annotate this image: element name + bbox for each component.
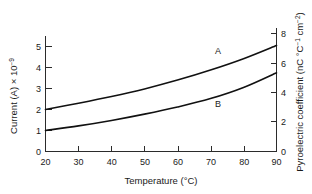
right-tick-label-8: 8: [281, 29, 286, 39]
x-tick-label-60: 60: [173, 157, 183, 167]
pyroelectric-current-chart: 5 4 3 2 1 0 8 6 4 2 0 20 30 40 50 60 70: [0, 0, 312, 194]
right-tick-label-0: 0: [281, 147, 286, 157]
right-tick-label-6: 6: [281, 59, 286, 69]
x-tick-label-30: 30: [74, 157, 84, 167]
y-axis-title-right-end: ): [294, 12, 305, 15]
left-tick-label-3: 3: [36, 84, 41, 94]
y-axis-title-left-exponent: −9: [8, 58, 15, 66]
right-tick-label-2: 2: [281, 117, 286, 127]
x-tick-label-90: 90: [271, 157, 281, 167]
y-axis-title-right: Pyroelectric coefficient (nC °C−1 cm−2): [294, 12, 306, 171]
right-tick-label-4: 4: [281, 88, 286, 98]
x-axis-title: Temperature (°C): [125, 175, 198, 186]
curve-label-B: B: [215, 99, 221, 109]
left-tick-label-2: 2: [36, 105, 41, 115]
svg-text:Pyroelectric coefficient (nC °: Pyroelectric coefficient (nC °C−1 cm−2): [294, 12, 306, 171]
x-tick-label-20: 20: [40, 157, 50, 167]
curve-label-A: A: [215, 46, 221, 56]
left-tick-label-5: 5: [36, 42, 41, 52]
x-tick-label-80: 80: [239, 157, 249, 167]
left-tick-label-1: 1: [36, 126, 41, 136]
x-tick-label-40: 40: [107, 157, 117, 167]
y-axis-title-left-text: Current (A) × 10: [8, 66, 19, 134]
x-tick-label-70: 70: [206, 157, 216, 167]
y-axis-title-right-text: Pyroelectric coefficient (nC °C: [294, 45, 305, 171]
y-axis-title-right-mid: cm: [294, 23, 305, 38]
left-tick-label-0: 0: [36, 147, 41, 157]
svg-text:Current (A) × 10−9: Current (A) × 10−9: [8, 58, 20, 134]
y-axis-title-left: Current (A) × 10−9: [8, 58, 20, 134]
left-tick-label-4: 4: [36, 63, 41, 73]
x-tick-label-50: 50: [140, 157, 150, 167]
